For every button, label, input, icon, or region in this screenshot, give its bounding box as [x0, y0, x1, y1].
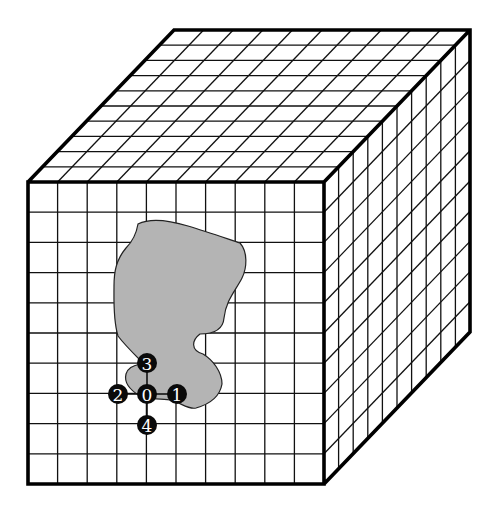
node-label: 1 [172, 385, 183, 405]
cube-diagram: 01234 [0, 0, 497, 509]
cube-outline [28, 30, 470, 484]
stencil-node-2: 2 [108, 384, 128, 405]
node-label: 3 [142, 354, 153, 374]
top-face-grid [43, 30, 456, 182]
right-face-grid [324, 45, 470, 469]
gray-region [114, 220, 246, 408]
node-label: 4 [142, 416, 153, 436]
node-label: 0 [142, 385, 153, 405]
node-label: 2 [113, 385, 124, 405]
stencil-node-4: 4 [137, 415, 157, 436]
stencil-node-0: 0 [137, 384, 157, 405]
